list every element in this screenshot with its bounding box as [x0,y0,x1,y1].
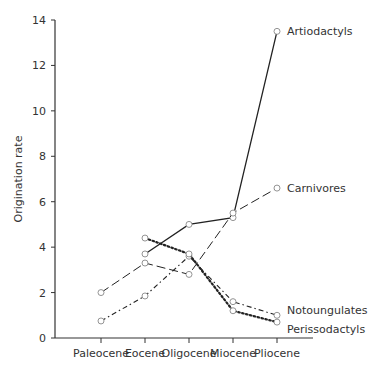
data-point-marker [274,319,280,325]
data-point-marker [98,290,104,296]
x-tick-label: Pliocene [254,347,300,360]
series-line-perissodactyls [145,238,277,322]
data-point-marker [230,299,236,305]
data-point-marker [186,251,192,257]
x-tick-label: Oligocene [161,347,216,360]
y-tick-label: 10 [32,105,46,118]
series-labels: ArtiodactylsCarnivoresNotoungulatesPeris… [287,25,368,336]
y-tick-label: 4 [39,241,46,254]
data-point-marker [142,260,148,266]
y-tick-label: 0 [39,332,46,345]
series-line-artiodactyls [145,31,277,254]
series-group [98,28,280,325]
data-point-marker [186,221,192,227]
data-point-marker [274,312,280,318]
data-point-marker [142,235,148,241]
y-tick-label: 12 [32,59,46,72]
data-point-marker [274,28,280,34]
series-label-carnivores: Carnivores [287,182,346,195]
data-point-marker [142,251,148,257]
x-tick-label: Miocene [210,347,256,360]
series-label-notoungulates: Notoungulates [287,304,368,317]
data-point-marker [230,210,236,216]
data-point-marker [230,308,236,314]
y-tick-label: 14 [32,14,46,27]
axes: 02468101214PaleoceneEoceneOligoceneMioce… [12,14,313,360]
y-tick-label: 8 [39,150,46,163]
y-tick-label: 6 [39,196,46,209]
origination-rate-chart: 02468101214PaleoceneEoceneOligoceneMioce… [0,0,370,372]
series-line-notoungulates [101,256,277,321]
series-label-perissodactyls: Perissodactyls [287,323,365,336]
x-tick-label: Eocene [125,347,165,360]
y-axis-title: Origination rate [12,135,25,222]
data-point-marker [98,318,104,324]
data-point-marker [274,185,280,191]
y-tick-label: 2 [39,287,46,300]
data-point-marker [186,271,192,277]
series-label-artiodactyls: Artiodactyls [287,25,353,38]
data-point-marker [142,293,148,299]
x-tick-label: Paleocene [73,347,129,360]
